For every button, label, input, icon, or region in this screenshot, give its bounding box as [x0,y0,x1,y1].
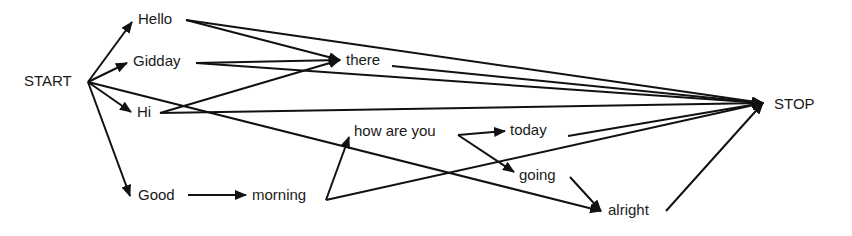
edge-morning-to-howareyou [326,137,349,200]
edge-gidday-to-stop [196,63,763,103]
edge-today-to-stop [568,103,763,136]
edge-hi-to-stop [160,103,763,113]
node-morning: morning [252,186,306,204]
node-stop: STOP [774,95,815,113]
edge-hello-to-there [186,20,340,60]
edge-howareyou-to-today [458,131,505,135]
edge-group [88,20,763,211]
node-good: Good [138,186,175,204]
edge-start-to-good [88,82,130,196]
edge-hi-to-there [160,60,340,113]
edge-howareyou-to-going [458,135,514,172]
edge-there-to-stop [392,66,763,103]
node-today: today [510,121,547,139]
edge-start-to-hello [88,22,132,82]
edge-alright-to-stop [666,103,763,211]
edge-going-to-alright [570,177,601,211]
node-how-are-you: how are you [354,122,436,140]
node-start: START [24,72,72,90]
node-hello: Hello [138,10,172,28]
node-there: there [346,51,380,69]
node-going: going [519,166,556,184]
edge-morning-to-stop [326,103,763,200]
word-lattice-diagram: START Hello Gidday Hi there Good morning… [0,0,852,236]
node-gidday: Gidday [133,52,181,70]
edges-layer [0,0,852,236]
node-hi: Hi [137,103,151,121]
node-alright: alright [608,201,649,219]
edge-gidday-to-there [196,60,340,63]
